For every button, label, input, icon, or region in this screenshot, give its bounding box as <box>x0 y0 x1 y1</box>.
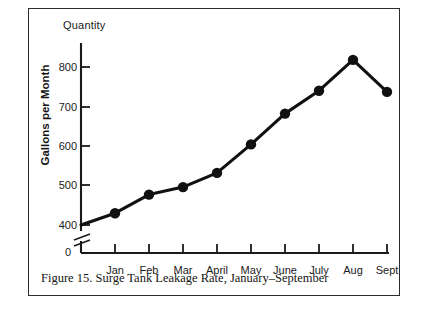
y-tick-label: 400 <box>47 220 77 230</box>
figure-frame: Quantity Gallons per Month 800 700 600 5… <box>28 8 400 296</box>
data-point <box>280 108 290 118</box>
data-point <box>110 208 120 218</box>
y-tick-label-zero: 0 <box>47 247 71 257</box>
data-point <box>178 182 188 192</box>
line-chart-svg <box>29 9 401 259</box>
y-tick-label: 700 <box>47 102 77 112</box>
data-point <box>144 189 154 199</box>
data-point <box>348 55 358 65</box>
data-point-markers <box>110 55 392 219</box>
data-point <box>246 139 256 149</box>
data-point <box>212 168 222 178</box>
data-point <box>382 87 392 97</box>
y-tick-label: 800 <box>47 62 77 72</box>
chart-plot-area: Quantity Gallons per Month 800 700 600 5… <box>29 9 401 259</box>
data-series-line <box>81 60 387 225</box>
figure-caption: Figure 15. Surge Tank Leakage Rate, Janu… <box>41 271 391 286</box>
y-tick-marks <box>81 67 90 225</box>
x-tick-marks <box>115 244 387 253</box>
y-tick-label: 600 <box>47 141 77 151</box>
y-tick-label-group: 800 700 600 500 400 0 <box>29 9 77 259</box>
data-point <box>314 86 324 96</box>
y-tick-label: 500 <box>47 180 77 190</box>
